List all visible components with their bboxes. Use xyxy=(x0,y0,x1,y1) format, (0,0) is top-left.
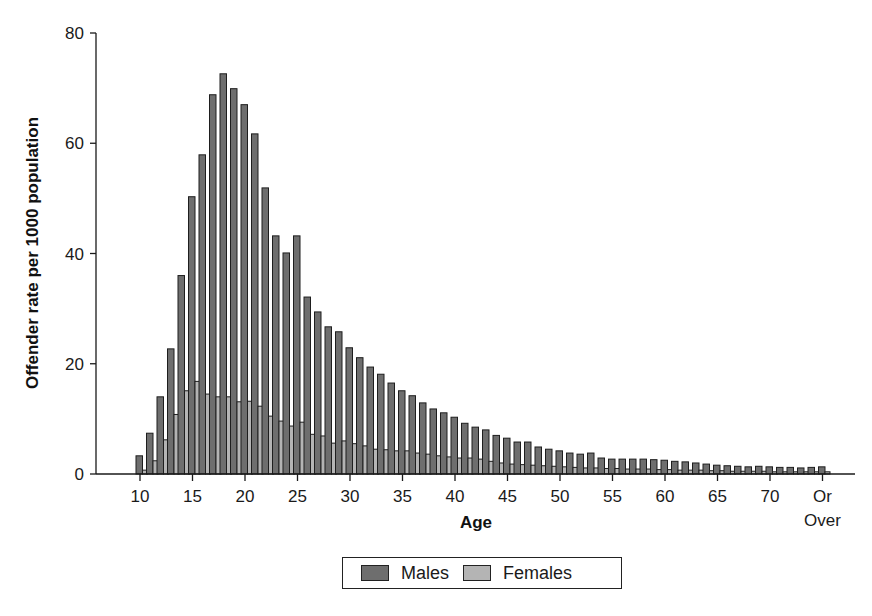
male-bar xyxy=(199,155,206,474)
male-bar xyxy=(693,463,700,474)
male-bar xyxy=(262,188,269,474)
male-bar xyxy=(315,312,322,474)
male-bar xyxy=(462,423,469,474)
male-bar xyxy=(273,236,280,474)
x-tick-label: 15 xyxy=(183,487,202,506)
male-bar xyxy=(640,459,647,474)
male-bar xyxy=(535,447,542,474)
male-bar xyxy=(609,459,616,474)
male-bar xyxy=(661,460,668,474)
male-bar xyxy=(178,276,185,474)
male-bar xyxy=(283,253,290,474)
male-bar xyxy=(556,451,563,474)
male-bar xyxy=(388,383,395,474)
male-bar xyxy=(399,391,406,474)
male-bar xyxy=(819,467,826,474)
x-tick-label: 55 xyxy=(603,487,622,506)
x-tick-label: 70 xyxy=(761,487,780,506)
male-bar xyxy=(619,459,626,474)
male-bar xyxy=(682,462,689,474)
males-swatch xyxy=(361,565,389,581)
male-bar xyxy=(735,466,742,474)
male-bar xyxy=(588,453,595,474)
male-bar xyxy=(703,464,710,474)
legend-label-males: Males xyxy=(401,563,449,584)
y-tick-label: 0 xyxy=(75,465,84,484)
y-tick-label: 60 xyxy=(65,134,84,153)
male-bar xyxy=(630,459,637,474)
male-bar xyxy=(325,327,332,474)
x-tick-label: 60 xyxy=(656,487,675,506)
male-bar xyxy=(147,433,154,474)
chart-legend: Males Females xyxy=(342,557,622,589)
male-bar xyxy=(808,467,815,474)
male-bar xyxy=(651,460,658,474)
male-bar xyxy=(357,358,364,474)
male-bar xyxy=(430,409,437,474)
male-bar xyxy=(220,74,227,474)
x-tick-label: Or xyxy=(813,487,832,506)
male-bar xyxy=(252,134,259,474)
x-tick-label: Over xyxy=(804,511,841,530)
y-tick-label: 40 xyxy=(65,245,84,264)
male-bar xyxy=(241,105,248,474)
male-bar xyxy=(451,417,458,474)
male-bar xyxy=(567,453,574,474)
x-tick-label: 40 xyxy=(446,487,465,506)
x-tick-label: 30 xyxy=(341,487,360,506)
x-tick-label: 65 xyxy=(708,487,727,506)
y-axis-title: Offender rate per 1000 population xyxy=(23,117,42,389)
male-bar xyxy=(777,467,784,474)
male-bar xyxy=(336,332,343,474)
offender-rate-bar-chart: 02040608010152025303540455055606570OrOve… xyxy=(0,0,872,560)
male-bar xyxy=(304,297,311,474)
x-tick-label: 50 xyxy=(551,487,570,506)
x-tick-label: 35 xyxy=(393,487,412,506)
females-swatch xyxy=(463,565,491,581)
male-bar xyxy=(714,465,721,474)
male-bar xyxy=(136,456,143,474)
male-bar xyxy=(378,374,385,474)
male-bar xyxy=(546,449,553,474)
male-bar xyxy=(483,430,490,474)
male-bar xyxy=(598,458,605,474)
male-bar xyxy=(367,367,374,474)
male-bar xyxy=(168,349,175,474)
legend-item-females: Females xyxy=(463,563,572,584)
male-bar xyxy=(210,95,217,474)
male-bar xyxy=(514,442,521,474)
male-bar xyxy=(745,467,752,474)
x-axis-title: Age xyxy=(460,513,492,532)
male-bar xyxy=(756,466,763,474)
male-bar xyxy=(787,467,794,474)
y-tick-label: 20 xyxy=(65,355,84,374)
male-bar xyxy=(231,89,238,474)
male-bar xyxy=(189,197,196,474)
x-tick-label: 45 xyxy=(498,487,517,506)
male-bar xyxy=(724,466,731,474)
male-bar xyxy=(420,403,427,474)
male-bar xyxy=(441,413,448,474)
male-bar xyxy=(672,461,679,474)
male-bar xyxy=(504,438,511,474)
male-bar xyxy=(409,396,416,474)
male-bar xyxy=(493,435,500,474)
y-tick-label: 80 xyxy=(65,24,84,43)
male-bar xyxy=(472,427,479,474)
bar-series xyxy=(136,74,830,474)
male-bar xyxy=(346,348,353,474)
male-bar xyxy=(157,397,164,474)
legend-item-males: Males xyxy=(361,563,449,584)
x-tick-label: 20 xyxy=(236,487,255,506)
male-bar xyxy=(798,468,805,474)
male-bar xyxy=(294,236,301,474)
legend-label-females: Females xyxy=(503,563,572,584)
x-tick-label: 25 xyxy=(288,487,307,506)
male-bar xyxy=(766,467,773,474)
male-bar xyxy=(525,442,532,474)
x-tick-label: 10 xyxy=(131,487,150,506)
male-bar xyxy=(577,454,584,474)
